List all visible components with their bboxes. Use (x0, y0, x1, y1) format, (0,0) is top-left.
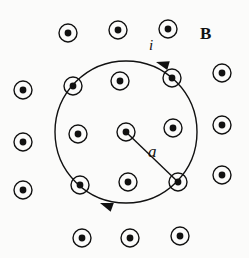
field-out-of-page-icon (213, 64, 231, 82)
field-out-of-page-icon (14, 81, 32, 99)
field-dot-layer (14, 20, 231, 247)
field-out-of-page-icon (164, 119, 182, 137)
field-out-of-page-icon (213, 166, 231, 184)
figure-canvas (0, 0, 249, 258)
field-out-of-page-icon (121, 229, 139, 247)
field-out-of-page-icon (119, 173, 137, 191)
radius-label: a (148, 143, 157, 160)
field-out-of-page-icon (111, 72, 129, 90)
field-out-of-page-icon (73, 229, 91, 247)
field-out-of-page-icon (14, 133, 32, 151)
magnetic-field-loop-figure: B i a (0, 0, 249, 258)
current-label: i (149, 38, 153, 53)
field-out-of-page-icon (14, 181, 32, 199)
magnetic-field-label: B (200, 25, 211, 42)
field-out-of-page-icon (171, 227, 189, 245)
field-out-of-page-icon (109, 21, 127, 39)
field-out-of-page-icon (59, 24, 77, 42)
field-out-of-page-icon (69, 125, 87, 143)
field-out-of-page-icon (213, 116, 231, 134)
field-out-of-page-icon (159, 20, 177, 38)
